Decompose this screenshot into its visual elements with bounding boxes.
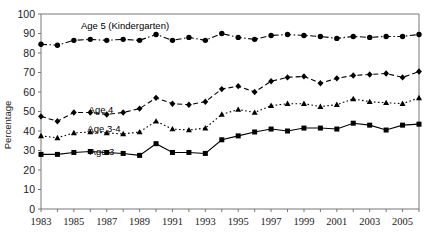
data-point	[416, 32, 421, 37]
data-point	[219, 137, 224, 142]
data-point	[400, 74, 406, 80]
data-point	[252, 89, 258, 95]
line-chart-svg: 0102030405060708090100 19831985198719891…	[0, 0, 432, 246]
data-series	[38, 31, 422, 158]
x-axis-ticks: 1983198519871989199119931995199719992001…	[31, 209, 420, 227]
data-point	[120, 109, 126, 115]
data-point	[400, 101, 406, 106]
data-point	[367, 35, 372, 40]
data-point	[400, 123, 405, 128]
data-point	[153, 118, 159, 123]
data-point	[367, 99, 373, 104]
data-point	[383, 34, 388, 39]
data-point	[367, 71, 373, 77]
data-point	[71, 109, 77, 115]
x-tick-label: 1991	[162, 216, 183, 227]
x-tick-label: 1999	[293, 216, 314, 227]
data-point	[219, 111, 225, 116]
data-point	[350, 72, 356, 78]
data-point	[170, 150, 175, 155]
data-point	[203, 151, 208, 156]
data-point	[38, 42, 43, 47]
data-point	[38, 133, 44, 138]
x-tick-label: 2005	[392, 216, 413, 227]
data-point	[252, 109, 258, 114]
data-point	[137, 38, 142, 43]
data-point	[301, 126, 306, 131]
data-point	[235, 106, 241, 111]
data-point	[55, 118, 61, 124]
data-point	[104, 38, 109, 43]
series-label: Age 3-4	[87, 123, 120, 134]
data-point	[351, 34, 356, 39]
y-tick-label: 40	[23, 125, 35, 137]
y-tick-label: 90	[23, 27, 35, 39]
data-point	[39, 152, 44, 157]
data-point	[121, 151, 126, 156]
series-age-4	[38, 68, 422, 124]
data-point	[71, 150, 76, 155]
data-point	[120, 37, 125, 42]
y-tick-label: 60	[23, 86, 35, 98]
data-point	[334, 102, 340, 107]
data-point	[236, 35, 241, 40]
y-axis-label: Percentage	[2, 101, 13, 150]
data-point	[317, 104, 323, 109]
data-point	[252, 37, 257, 42]
y-tick-label: 20	[23, 164, 35, 176]
data-point	[416, 68, 422, 74]
data-point	[301, 33, 306, 38]
x-tick-label: 2001	[326, 216, 347, 227]
data-point	[318, 126, 323, 131]
data-point	[350, 96, 356, 101]
data-point	[153, 95, 159, 101]
x-tick-label: 1987	[96, 216, 117, 227]
data-point	[186, 150, 191, 155]
data-point	[285, 101, 291, 106]
y-tick-label: 50	[23, 105, 35, 117]
data-point	[252, 129, 257, 134]
x-tick-label: 1989	[129, 216, 150, 227]
data-point	[186, 101, 192, 107]
y-tick-label: 10	[23, 183, 35, 195]
series-label: Age 5 (Kindergarten)	[81, 20, 169, 31]
data-point	[318, 34, 323, 39]
data-point	[269, 127, 274, 132]
x-tick-label: 1997	[261, 216, 282, 227]
y-tick-label: 100	[17, 8, 35, 20]
series-age-5-kindergarten	[38, 31, 421, 48]
series-label: Age 4	[89, 104, 114, 115]
y-tick-label: 30	[23, 144, 35, 156]
data-point	[203, 38, 208, 43]
data-point	[137, 105, 143, 111]
data-point	[219, 86, 225, 92]
data-point	[54, 135, 60, 140]
data-point	[351, 121, 356, 126]
y-tick-label: 80	[23, 47, 35, 59]
data-point	[334, 75, 340, 81]
data-point	[301, 73, 307, 79]
data-point	[384, 128, 389, 133]
data-point	[285, 74, 291, 80]
data-point	[71, 130, 77, 135]
data-point	[383, 70, 389, 76]
y-tick-label: 0	[29, 203, 35, 215]
data-point	[137, 129, 143, 134]
data-point	[170, 38, 175, 43]
x-tick-label: 2003	[359, 216, 380, 227]
data-point	[416, 95, 422, 100]
data-point	[38, 113, 44, 119]
data-point	[153, 32, 158, 37]
data-point	[334, 127, 339, 132]
x-tick-label: 1983	[31, 216, 52, 227]
chart-figure: 0102030405060708090100 19831985198719891…	[0, 0, 432, 246]
data-point	[367, 123, 372, 128]
x-tick-label: 1995	[228, 216, 249, 227]
data-point	[285, 32, 290, 37]
data-point	[71, 38, 76, 43]
data-point	[170, 101, 176, 107]
series-line	[41, 34, 419, 46]
data-point	[301, 101, 307, 106]
data-point	[55, 152, 60, 157]
data-point	[400, 34, 405, 39]
